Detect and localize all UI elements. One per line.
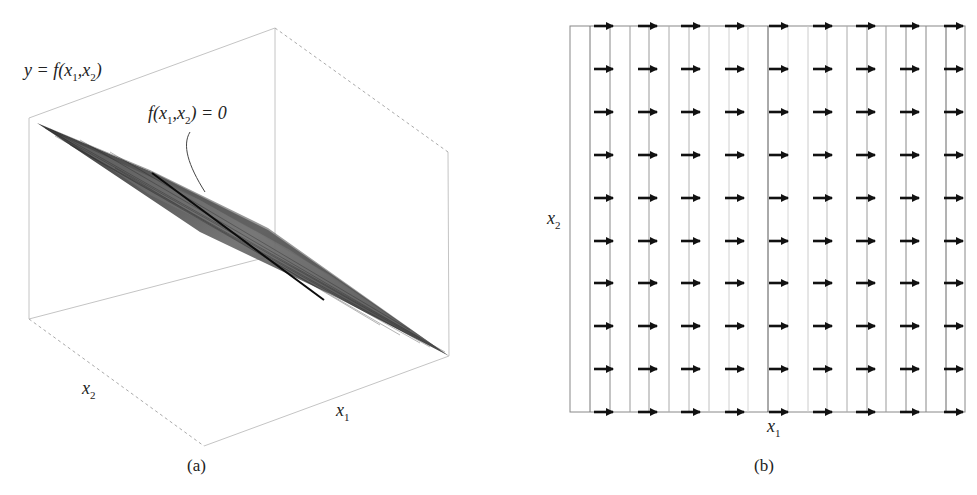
y-axis-label: y = f(x1,x2) (24, 60, 102, 83)
x2-axis-label: x2 (547, 208, 561, 231)
quiver-plot-canvas (490, 0, 977, 495)
panel-a-surface-plot: y = f(x1,x2) f(x1,x2) = 0 x2 x1 (a) (0, 0, 490, 495)
panel-b-gradient-field: x2 x1 (b) (490, 0, 977, 495)
x1-axis-label: x1 (336, 400, 350, 423)
annotation-leader (186, 132, 205, 192)
x2-axis-label: x2 (82, 378, 96, 401)
zero-contour-annotation: f(x1,x2) = 0 (148, 103, 227, 126)
zero-contour-line (152, 173, 324, 300)
panel-b-caption: (b) (754, 456, 774, 476)
level-lines (590, 26, 946, 412)
panel-a-caption: (a) (187, 456, 206, 476)
x1-axis-label: x1 (767, 416, 781, 439)
